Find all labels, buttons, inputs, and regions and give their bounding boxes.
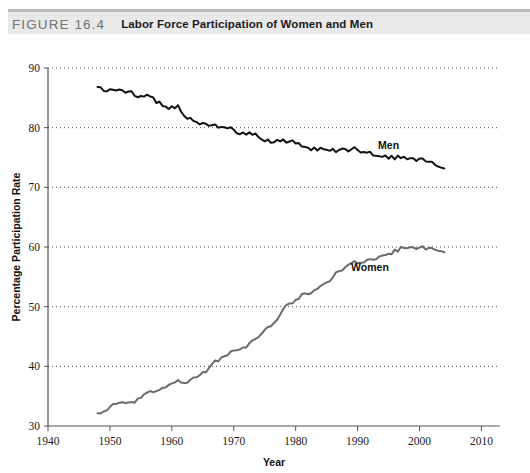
axis-titles-group: YearPercentage Participation Rate [10, 172, 285, 468]
x-tick-label-1940: 1940 [37, 435, 60, 447]
x-tick-label-1960: 1960 [160, 435, 183, 447]
y-tick-label-50: 50 [29, 301, 41, 313]
y-tick-label-60: 60 [29, 241, 41, 253]
x-tick-label-1990: 1990 [346, 435, 369, 447]
x-tick-labels-group: 19401950196019701980199020002010 [37, 435, 494, 447]
y-tick-label-90: 90 [29, 62, 41, 74]
x-tick-label-2010: 2010 [470, 435, 493, 447]
y-tick-labels-group: 30405060708090 [29, 62, 41, 432]
y-tick-label-40: 40 [29, 360, 41, 372]
data-series-group [98, 87, 445, 414]
figure-container: FIGURE 16.4 Labor Force Participation of… [0, 0, 530, 473]
y-axis-title: Percentage Participation Rate [10, 172, 22, 321]
y-tick-label-80: 80 [29, 122, 41, 134]
x-tick-label-1980: 1980 [284, 435, 307, 447]
chart-area: 30405060708090 1940195019601970198019902… [0, 38, 530, 468]
series-line-women [98, 246, 445, 413]
figure-header-rule [8, 9, 530, 12]
line-chart: 30405060708090 1940195019601970198019902… [0, 38, 530, 468]
figure-header-text: FIGURE 16.4 Labor Force Participation of… [12, 14, 373, 34]
series-label-men: Men [378, 139, 399, 151]
series-label-women: Women [351, 261, 389, 273]
figure-title: Labor Force Participation of Women and M… [121, 18, 373, 30]
y-tick-label-70: 70 [29, 181, 41, 193]
page-bleed-text [0, 466, 530, 473]
x-tick-label-2000: 2000 [408, 435, 431, 447]
page-bleed-line [10, 466, 530, 473]
x-tick-label-1970: 1970 [222, 435, 245, 447]
y-tick-label-30: 30 [29, 420, 41, 432]
figure-number: FIGURE 16.4 [12, 17, 105, 32]
x-tick-label-1950: 1950 [98, 435, 121, 447]
